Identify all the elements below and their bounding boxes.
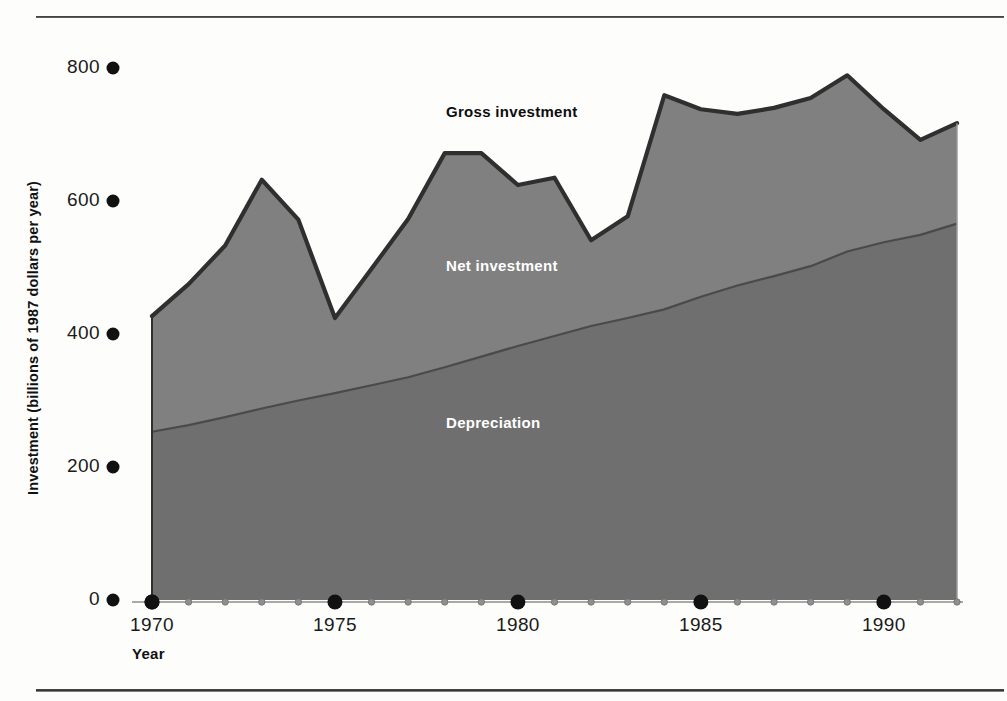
x-minor-tick-dot-1987	[771, 599, 777, 605]
x-tick-dot-1970	[145, 595, 160, 610]
x-minor-tick-dot-1981	[551, 599, 557, 605]
y-tick-dot-200	[107, 461, 120, 474]
x-minor-tick-dot-1983	[624, 599, 630, 605]
y-tick-dot-0	[107, 594, 120, 607]
series-label-depreciation: Depreciation	[446, 414, 540, 431]
y-tick-dot-400	[107, 328, 120, 341]
x-minor-tick-dot-1971	[185, 599, 191, 605]
x-tick-label-1980: 1980	[483, 614, 553, 636]
x-minor-tick-dot-1989	[844, 599, 850, 605]
x-minor-tick-dot-1979	[478, 599, 484, 605]
y-tick-dot-600	[107, 195, 120, 208]
x-tick-label-1990: 1990	[849, 614, 919, 636]
series-label-net-investment: Net investment	[446, 257, 558, 274]
y-tick-label-200: 200	[44, 455, 100, 477]
x-minor-tick-dot-1992	[954, 599, 960, 605]
x-minor-tick-dot-1978	[442, 599, 448, 605]
x-minor-tick-dot-1976	[368, 599, 374, 605]
x-minor-tick-dot-1973	[259, 599, 265, 605]
x-minor-tick-dot-1974	[295, 599, 301, 605]
x-minor-tick-dot-1991	[917, 599, 923, 605]
y-tick-label-0: 0	[44, 588, 100, 610]
y-tick-label-800: 800	[44, 56, 100, 78]
x-tick-dot-1990	[876, 595, 891, 610]
x-tick-label-1970: 1970	[117, 614, 187, 636]
x-minor-tick-dot-1984	[661, 599, 667, 605]
x-minor-tick-dot-1986	[734, 599, 740, 605]
y-tick-dot-800	[107, 62, 120, 75]
x-tick-dot-1980	[510, 595, 525, 610]
x-minor-tick-dot-1982	[588, 599, 594, 605]
x-minor-tick-dot-1972	[222, 599, 228, 605]
x-tick-label-1975: 1975	[300, 614, 370, 636]
x-tick-label-1985: 1985	[666, 614, 736, 636]
x-tick-dot-1975	[327, 595, 342, 610]
y-tick-label-400: 400	[44, 322, 100, 344]
x-axis-title: Year	[132, 645, 165, 662]
series-label-gross-investment: Gross investment	[446, 103, 578, 120]
x-minor-tick-dot-1988	[807, 599, 813, 605]
x-minor-tick-dot-1977	[405, 599, 411, 605]
x-tick-dot-1985	[693, 595, 708, 610]
y-tick-label-600: 600	[44, 189, 100, 211]
investment-chart-figure: Investment (billions of 1987 dollars per…	[0, 0, 1007, 701]
y-axis-title: Investment (billions of 1987 dollars per…	[25, 123, 41, 553]
